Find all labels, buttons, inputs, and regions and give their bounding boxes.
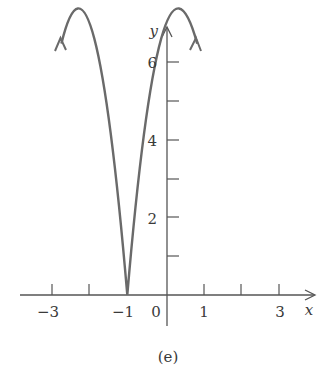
x-tick-label-3: 3 [275, 303, 285, 321]
parabola-curve [61, 8, 197, 295]
curve-right-arrow-icon [190, 38, 201, 51]
x-tick-label-0: 0 [151, 303, 161, 321]
y-tick-label-2: 2 [147, 210, 157, 228]
curve-left-arrow-icon [55, 38, 66, 51]
y-tick-label-4: 4 [147, 132, 157, 150]
x-tick-label-neg3: −3 [37, 303, 59, 321]
x-ticks [52, 284, 279, 295]
y-tick-label-6: 6 [147, 54, 157, 72]
figure-caption: (e) [158, 348, 179, 366]
y-axis-label: y [149, 22, 159, 40]
x-tick-label-1: 1 [199, 303, 209, 321]
x-axis-label: x [305, 301, 314, 319]
y-ticks [167, 62, 179, 256]
parabola-chart: −3 −1 0 1 3 x 6 4 2 y (e) [0, 0, 322, 387]
x-tick-label-neg1: −1 [112, 303, 134, 321]
